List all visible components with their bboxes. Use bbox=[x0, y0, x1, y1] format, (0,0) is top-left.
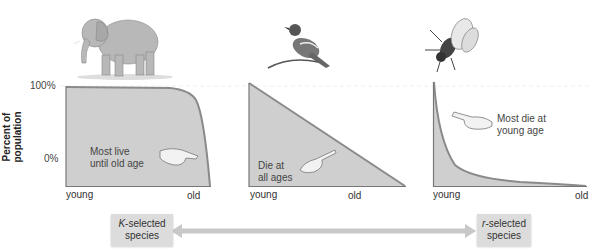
note-line: all ages bbox=[258, 172, 292, 184]
y-axis-label-line2: population bbox=[12, 111, 23, 162]
k-rest: -selected bbox=[125, 218, 166, 229]
bird-icon bbox=[268, 24, 330, 68]
note-line: until old age bbox=[90, 158, 144, 170]
r-selected-line2: species bbox=[477, 230, 531, 242]
elephant-icon bbox=[74, 19, 173, 80]
panel-2-x-end: old bbox=[348, 190, 361, 201]
note-line: Most live bbox=[90, 146, 144, 158]
panel-3-x-end: old bbox=[575, 190, 588, 201]
k-selected-box: K-selected species bbox=[111, 214, 173, 246]
y-tick-0: 0% bbox=[44, 153, 58, 164]
k-selected-line2: species bbox=[111, 230, 173, 242]
k-selected-line1: K-selected bbox=[111, 218, 173, 230]
r-selected-box: r-selected species bbox=[477, 214, 531, 246]
r-rest: -selected bbox=[485, 218, 526, 229]
pointing-hand-icon bbox=[452, 112, 492, 129]
note-line: Most die at bbox=[497, 113, 546, 125]
panel-3-note: Most die at young age bbox=[497, 113, 546, 137]
note-line: Die at bbox=[258, 160, 292, 172]
panel-1-note: Most live until old age bbox=[90, 146, 144, 170]
r-selected-line1: r-selected bbox=[477, 218, 531, 230]
survivorship-curve-type-1 bbox=[66, 86, 211, 187]
y-axis-label-line1: Percent of bbox=[1, 111, 12, 162]
panel-1-x-end: old bbox=[187, 190, 200, 201]
panel-3-x-start: young bbox=[433, 189, 460, 200]
y-axis-label: Percent ofpopulation bbox=[2, 92, 22, 182]
fly-icon bbox=[425, 16, 482, 72]
y-tick-100: 100% bbox=[30, 80, 56, 91]
panel-2-x-start: young bbox=[250, 189, 277, 200]
note-line: young age bbox=[497, 125, 546, 137]
panel-1-x-start: young bbox=[66, 189, 93, 200]
spectrum-arrow bbox=[171, 224, 476, 238]
panel-2-note: Die at all ages bbox=[258, 160, 292, 184]
